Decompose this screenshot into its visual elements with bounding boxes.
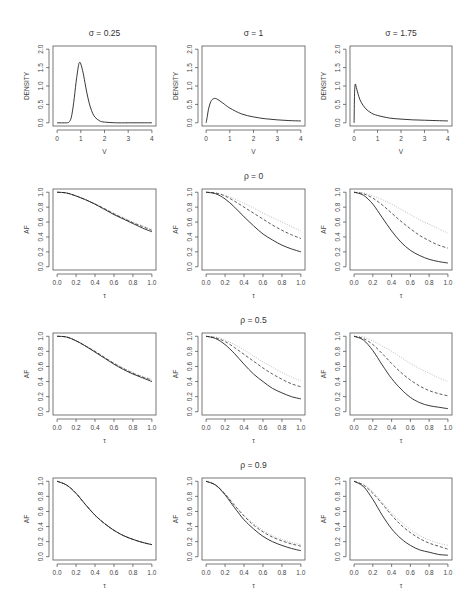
y-axis: 0.00.20.40.60.81.0AF xyxy=(172,331,198,416)
x-tick-label: 0.0 xyxy=(202,424,211,431)
x-tick-label: 0.0 xyxy=(202,279,211,286)
x-tick-label: 0.0 xyxy=(202,569,211,576)
y-tick-label: 0.0 xyxy=(334,407,341,416)
series-solid-line xyxy=(354,84,448,123)
x-axis-label: V xyxy=(251,148,256,155)
panel-r3c3: 0.00.20.40.60.81.0τ0.00.20.40.60.81.0AF xyxy=(320,331,453,444)
x-tick-label: 0.0 xyxy=(350,569,359,576)
x-tick-label: 0.8 xyxy=(128,279,137,286)
y-axis-label: AF xyxy=(320,225,327,233)
y-axis: 0.00.20.40.60.81.0AF xyxy=(23,476,49,561)
y-axis-label: DENSITY xyxy=(320,71,327,100)
y-axis-label: AF xyxy=(172,515,179,523)
x-tick-label: 0.4 xyxy=(387,424,396,431)
y-tick-label: 0.4 xyxy=(334,522,341,531)
y-axis: 0.00.20.40.60.81.0AF xyxy=(172,476,198,561)
series-dashed-line xyxy=(206,481,301,546)
x-tick-label: 0.8 xyxy=(425,424,434,431)
y-axis: 0.00.51.01.52.0DENSITY xyxy=(172,44,198,127)
panel-r1c1: σ = 0.2501234V0.00.51.01.52.0DENSITY xyxy=(23,28,156,155)
series-dashed-line xyxy=(206,336,301,387)
y-tick-label: 0.8 xyxy=(334,346,341,355)
y-axis: 0.00.20.40.60.81.0AF xyxy=(172,187,198,271)
y-tick-label: 1.0 xyxy=(37,476,44,485)
y-tick-label: 0.6 xyxy=(186,362,193,371)
x-axis-label: τ xyxy=(400,292,403,299)
y-tick-label: 0.2 xyxy=(186,247,193,256)
x-axis: 0.00.20.40.60.81.0τ xyxy=(53,274,157,299)
plot-frame xyxy=(53,46,156,126)
x-axis-label: τ xyxy=(252,582,255,589)
plot-frame xyxy=(53,189,156,270)
series-solid-line xyxy=(354,192,448,263)
y-tick-label: 0.2 xyxy=(37,537,44,546)
y-tick-label: 1.0 xyxy=(334,331,341,340)
y-tick-label: 1.5 xyxy=(186,63,193,72)
y-tick-label: 0.0 xyxy=(186,262,193,271)
x-axis: 0.00.20.40.60.81.0τ xyxy=(350,419,453,444)
x-tick-label: 1.0 xyxy=(443,569,452,576)
x-tick-label: 0.2 xyxy=(368,424,377,431)
x-axis: 01234V xyxy=(204,130,303,155)
y-tick-label: 2.0 xyxy=(37,44,44,53)
x-tick-label: 0.4 xyxy=(387,279,396,286)
y-tick-label: 0.6 xyxy=(37,362,44,371)
plot-frame xyxy=(350,478,452,560)
x-tick-label: 3 xyxy=(423,135,427,142)
x-tick-label: 2 xyxy=(103,135,107,142)
panel-title: ρ = 0.5 xyxy=(240,315,267,325)
x-axis: 0.00.20.40.60.81.0τ xyxy=(202,419,306,444)
y-axis: 0.00.20.40.60.81.0AF xyxy=(23,331,49,416)
x-tick-label: 0.2 xyxy=(72,279,81,286)
x-axis: 0.00.20.40.60.81.0τ xyxy=(350,274,453,299)
y-tick-label: 0.8 xyxy=(186,202,193,211)
plot-frame xyxy=(202,189,305,270)
y-tick-label: 0.0 xyxy=(37,552,44,561)
y-tick-label: 0.6 xyxy=(37,217,44,226)
x-tick-label: 0.2 xyxy=(368,569,377,576)
x-tick-label: 0.6 xyxy=(406,424,415,431)
y-tick-label: 0.8 xyxy=(186,491,193,500)
x-tick-label: 0.8 xyxy=(277,279,286,286)
x-axis-label: τ xyxy=(103,292,106,299)
x-axis-label: V xyxy=(102,148,107,155)
y-tick-label: 1.0 xyxy=(334,187,341,196)
panel-r3c1: 0.00.20.40.60.81.0τ0.00.20.40.60.81.0AF xyxy=(23,331,157,444)
plot-frame xyxy=(202,46,305,126)
x-tick-label: 1 xyxy=(79,135,83,142)
panel-r3c2: ρ = 0.50.00.20.40.60.81.0τ0.00.20.40.60.… xyxy=(172,315,306,444)
panel-r4c1: 0.00.20.40.60.81.0τ0.00.20.40.60.81.0AF xyxy=(23,476,157,589)
y-tick-label: 1.0 xyxy=(37,81,44,90)
y-tick-label: 0.4 xyxy=(37,232,44,241)
series-solid-line xyxy=(57,192,152,231)
y-tick-label: 0.4 xyxy=(334,232,341,241)
x-tick-label: 0.0 xyxy=(53,569,62,576)
y-tick-label: 0.6 xyxy=(186,217,193,226)
x-tick-label: 0 xyxy=(55,135,59,142)
y-axis-label: DENSITY xyxy=(23,71,30,100)
series-solid-line xyxy=(57,481,152,544)
x-tick-label: 1.0 xyxy=(296,569,305,576)
series-dashed-line xyxy=(57,481,152,544)
x-axis-label: τ xyxy=(252,292,255,299)
y-tick-label: 1.5 xyxy=(334,63,341,72)
panel-r2c2: ρ = 00.00.20.40.60.81.0τ0.00.20.40.60.81… xyxy=(172,171,306,299)
x-axis-label: τ xyxy=(400,582,403,589)
series-solid-line xyxy=(206,192,301,252)
x-tick-label: 0.6 xyxy=(406,569,415,576)
x-axis: 0.00.20.40.60.81.0τ xyxy=(53,419,157,444)
series-solid-line xyxy=(206,481,301,550)
x-tick-label: 0.6 xyxy=(109,279,118,286)
plot-frame xyxy=(53,478,156,560)
y-axis-label: DENSITY xyxy=(172,71,179,100)
y-axis: 0.00.51.01.52.0DENSITY xyxy=(23,44,49,127)
y-tick-label: 1.0 xyxy=(186,476,193,485)
x-tick-label: 1.0 xyxy=(147,424,156,431)
y-tick-label: 0.8 xyxy=(334,491,341,500)
panel-title: ρ = 0.9 xyxy=(240,460,267,470)
y-tick-label: 0.4 xyxy=(186,232,193,241)
x-tick-label: 0.6 xyxy=(406,279,415,286)
panel-r4c2: ρ = 0.90.00.20.40.60.81.0τ0.00.20.40.60.… xyxy=(172,460,306,589)
x-tick-label: 1.0 xyxy=(147,569,156,576)
y-tick-label: 0.0 xyxy=(37,118,44,127)
